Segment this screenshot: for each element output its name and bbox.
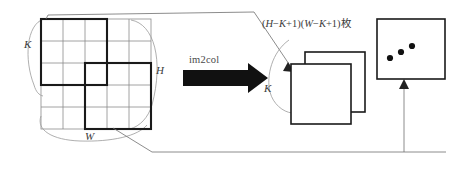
im2col-arrow <box>183 63 268 93</box>
kernel-window-top-left <box>41 19 107 85</box>
brace-w-bottom <box>40 116 80 141</box>
label-kernel-size-k-right: K <box>264 82 271 94</box>
label-width-w: W <box>85 130 94 142</box>
ellipsis-dot-3 <box>409 43 415 49</box>
kernel-windows <box>41 19 151 129</box>
output-patch-front <box>291 64 351 124</box>
label-kernel-size-k-left: K <box>24 38 31 50</box>
formula-var-k-2: K <box>319 18 326 29</box>
ellipsis-dot-2 <box>398 49 404 55</box>
output-patch-last <box>377 19 445 79</box>
output-patch-stack <box>291 52 365 124</box>
label-patch-count-formula: (H−K+1)(W−K+1)枚 <box>262 15 351 30</box>
formula-var-w: W <box>304 18 313 29</box>
formula-var-h: H <box>266 18 274 29</box>
ellipsis-dot-1 <box>387 55 393 61</box>
output-patch-last-group <box>377 19 445 79</box>
formula-var-k-1: K <box>279 18 286 29</box>
input-feature-map-grid <box>41 19 151 129</box>
figure-canvas <box>0 0 461 169</box>
dimension-braces <box>28 19 157 141</box>
formula-counter-mai: 枚 <box>341 18 351 29</box>
kernel-window-bottom-mid <box>85 63 151 129</box>
brace-k-left-tail <box>34 85 43 96</box>
formula-plus-1: +1) <box>286 18 301 29</box>
connector-bottom <box>113 79 446 152</box>
brace-h-right-tail <box>130 105 152 129</box>
label-operation-im2col: im2col <box>189 54 219 65</box>
connector-bottom-arrowhead <box>399 79 409 89</box>
label-height-h: H <box>156 64 164 76</box>
im2col-figure: K H W K im2col (H−K+1)(W−K+1)枚 <box>0 0 461 169</box>
formula-plus-2: +1) <box>326 18 341 29</box>
